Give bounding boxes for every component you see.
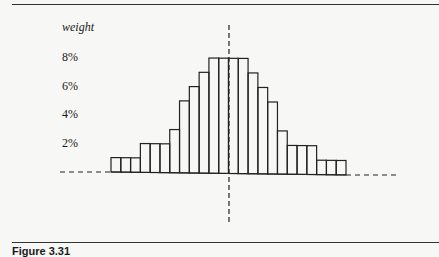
histogram-bar bbox=[180, 101, 190, 173]
histogram-bar bbox=[258, 87, 268, 173]
histogram-bar bbox=[121, 158, 131, 172]
histogram-bar bbox=[209, 58, 219, 173]
histogram-bar bbox=[317, 160, 327, 174]
figure-caption: Figure 3.31 bbox=[12, 245, 70, 257]
histogram-bar bbox=[287, 145, 297, 174]
histogram-bar bbox=[326, 160, 336, 174]
histogram-bar bbox=[238, 58, 248, 173]
histogram-bar bbox=[199, 72, 209, 173]
histogram-bar bbox=[277, 131, 287, 174]
histogram-bar bbox=[336, 160, 346, 174]
histogram-bar bbox=[140, 144, 150, 173]
histogram-bar bbox=[150, 144, 160, 173]
histogram-bar bbox=[219, 58, 229, 173]
histogram-bar bbox=[248, 73, 258, 174]
histogram-bar bbox=[268, 102, 278, 174]
histogram-bar bbox=[131, 158, 141, 172]
histogram-bar bbox=[307, 146, 317, 175]
histogram-bar bbox=[297, 146, 307, 175]
histogram-bar bbox=[229, 58, 239, 173]
histogram-bar bbox=[170, 130, 180, 173]
histogram-bar bbox=[189, 87, 199, 173]
bottom-rule bbox=[12, 242, 439, 243]
histogram-bar bbox=[160, 144, 170, 173]
histogram-bar bbox=[111, 158, 121, 172]
